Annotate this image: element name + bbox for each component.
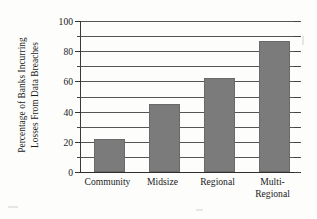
x-axis-tick-label: Multi-Regional <box>245 176 300 199</box>
y-axis-minor-tick <box>77 66 81 67</box>
x-axis-tick-label: Midsize <box>135 176 190 188</box>
y-axis-title: Percentage of Banks Incurring Losses Fro… <box>14 16 42 174</box>
y-axis-minor-tick <box>77 157 81 158</box>
y-axis-tick-label: 0 <box>68 167 73 178</box>
x-axis-tick-label: Community <box>80 176 135 188</box>
y-axis-minor-tick <box>77 127 81 128</box>
x-axis-tick-labels: CommunityMidsizeRegionalMulti-Regional <box>80 176 300 216</box>
y-axis-minor-tick <box>77 36 81 37</box>
y-axis-major-tick <box>75 172 81 173</box>
x-axis-tick-label-line: Community <box>80 176 135 188</box>
y-axis-tick-label: 80 <box>63 46 73 57</box>
y-axis-title-text: Percentage of Banks Incurring Losses Fro… <box>16 37 41 153</box>
gridline <box>81 36 301 37</box>
y-axis-right-tick <box>294 81 300 82</box>
bar <box>204 78 235 172</box>
bar-chart-figure: Percentage of Banks Incurring Losses Fro… <box>0 0 317 219</box>
y-axis-right-tick <box>294 172 300 173</box>
y-axis-tick-label: 40 <box>63 106 73 117</box>
y-axis-right-tick <box>294 157 300 158</box>
y-axis-tick-label: 100 <box>59 16 73 27</box>
y-axis-right-tick <box>294 97 300 98</box>
scan-artifact <box>8 206 18 208</box>
y-axis-right-tick <box>294 36 300 37</box>
scan-artifact <box>196 209 203 211</box>
y-axis-title-line-2: Losses From Data Breaches <box>28 37 41 153</box>
y-axis-right-tick <box>294 21 300 22</box>
bar <box>259 41 290 172</box>
bar <box>94 139 125 172</box>
x-axis-tick-label-line: Multi- <box>245 176 300 188</box>
y-axis-major-tick <box>75 51 81 52</box>
y-axis-right-tick <box>294 127 300 128</box>
bar <box>149 104 180 172</box>
x-axis-tick-label-line: Regional <box>190 176 245 188</box>
y-axis-major-tick <box>75 21 81 22</box>
y-axis-major-tick <box>75 81 81 82</box>
gridline <box>81 21 301 22</box>
y-axis-right-tick <box>294 66 300 67</box>
x-axis-tick-label-line: Midsize <box>135 176 190 188</box>
x-axis-tick-label-line: Regional <box>245 188 300 200</box>
y-axis-right-tick <box>294 142 300 143</box>
plot-area: 020406080100 <box>80 21 300 172</box>
y-axis-right-tick <box>294 51 300 52</box>
y-axis-tick-label: 60 <box>63 76 73 87</box>
scan-artifact <box>302 36 304 45</box>
y-axis-title-line-1: Percentage of Banks Incurring <box>16 37 29 153</box>
y-axis-major-tick <box>75 112 81 113</box>
y-axis-major-tick <box>75 142 81 143</box>
x-axis-tick-label: Regional <box>190 176 245 188</box>
y-axis-tick-label: 20 <box>63 136 73 147</box>
axis-baseline <box>81 172 301 173</box>
y-axis-minor-tick <box>77 97 81 98</box>
y-axis-right-tick <box>294 112 300 113</box>
